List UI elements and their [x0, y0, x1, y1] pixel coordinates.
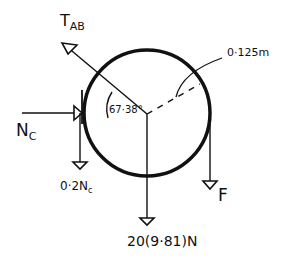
- free-body-diagram: TAB 67·38° 0·125m 20(9·81)N NC 0·2Nc F: [0, 0, 301, 265]
- applied-force-arrow: [203, 113, 217, 189]
- normal-arrow: [22, 90, 82, 124]
- radius-line: [147, 84, 200, 114]
- angle-label: 67·38°: [109, 104, 143, 115]
- tension-label: TAB: [59, 11, 85, 33]
- radius-label: 0·125m: [227, 46, 269, 59]
- normal-label: NC: [16, 120, 37, 143]
- weight-label: 20(9·81)N: [127, 233, 197, 249]
- friction-label: 0·2Nc: [60, 179, 92, 195]
- applied-force-label: F: [218, 185, 228, 205]
- weight-arrow: [140, 114, 154, 225]
